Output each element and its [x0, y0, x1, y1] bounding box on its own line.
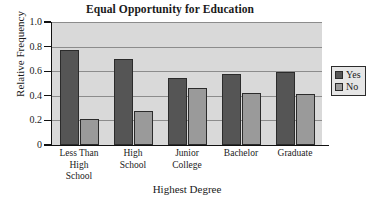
y-axis-line: [51, 22, 52, 146]
bar-yes-0[interactable]: [60, 50, 79, 145]
x-axis-tick-label: Graduate: [268, 148, 322, 160]
y-axis-tick-label: 1.0: [30, 17, 43, 27]
x-axis-tick-labels: Less Than High SchoolHigh SchoolJunior C…: [52, 148, 322, 186]
y-axis-tick: [44, 120, 51, 121]
bar-yes-1[interactable]: [114, 59, 133, 145]
legend-label-no: No: [346, 82, 358, 92]
bar-yes-2[interactable]: [168, 78, 187, 145]
y-axis-tick-label: 0.4: [30, 91, 43, 101]
bar-no-0[interactable]: [80, 119, 99, 145]
legend-item-yes[interactable]: Yes: [335, 69, 361, 81]
y-axis-tick: [44, 46, 51, 47]
x-axis-tick-label: Bachelor: [214, 148, 268, 160]
x-axis-tick-label: Junior College: [160, 148, 214, 171]
y-axis-tick-label: 0: [37, 140, 42, 150]
y-axis-tick: [44, 144, 51, 145]
y-axis-tick: [44, 95, 51, 96]
gridline: [52, 47, 322, 48]
bar-chart-figure: Equal Opportunity for Education Relative…: [0, 0, 380, 203]
legend-swatch-no-icon: [335, 83, 343, 91]
legend: Yes No: [331, 66, 366, 96]
chart-title: Equal Opportunity for Education: [0, 2, 340, 16]
bar-yes-4[interactable]: [276, 72, 295, 145]
y-axis-tick-label: 0.2: [30, 115, 43, 125]
x-axis-title: Highest Degree: [52, 183, 322, 195]
gridline: [52, 22, 322, 23]
x-axis-tick-label: Less Than High School: [52, 148, 106, 183]
bar-yes-3[interactable]: [222, 74, 241, 145]
bar-no-2[interactable]: [188, 88, 207, 145]
plot-area: [52, 22, 322, 145]
legend-label-yes: Yes: [346, 70, 361, 80]
y-axis-tick: [44, 71, 51, 72]
bar-no-4[interactable]: [296, 94, 315, 145]
y-axis-tick-label: 0.6: [30, 66, 43, 76]
x-axis-tick-label: High School: [106, 148, 160, 171]
bar-no-1[interactable]: [134, 111, 153, 145]
y-axis-tick-label: 0.8: [30, 42, 43, 52]
legend-item-no[interactable]: No: [335, 81, 361, 93]
y-axis-ticks: 00.20.40.60.81.0: [0, 0, 51, 203]
x-axis-line: [44, 145, 329, 146]
bar-no-3[interactable]: [242, 93, 261, 145]
legend-swatch-yes-icon: [335, 71, 343, 79]
y-axis-tick: [44, 21, 51, 22]
